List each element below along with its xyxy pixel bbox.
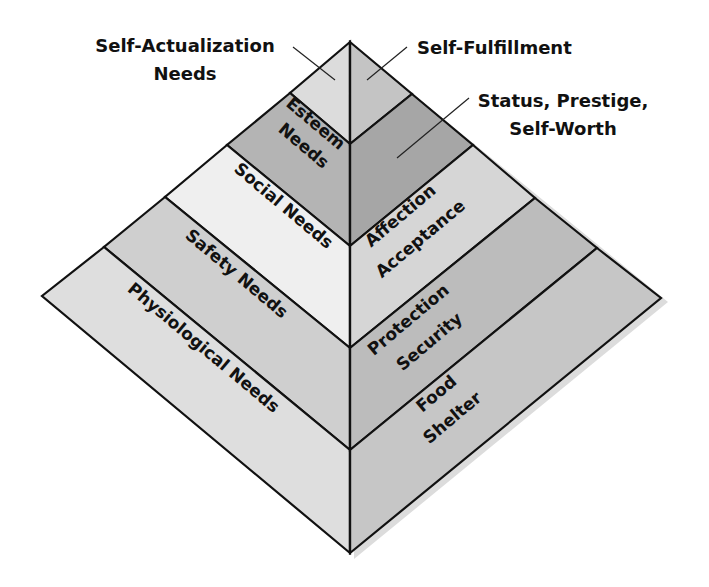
callout-self-actualization-line1: Self-Actualization [95, 35, 274, 56]
callout-self-actualization-line2: Needs [153, 63, 216, 84]
callout-status-line1: Status, Prestige, [478, 90, 649, 111]
maslow-pyramid-diagram: Self-Actualization Needs Self-Fulfillmen… [0, 0, 709, 587]
callout-self-fulfillment: Self-Fulfillment [417, 37, 572, 58]
callout-status-line2: Self-Worth [509, 118, 616, 139]
pyramid-svg: Self-Actualization Needs Self-Fulfillmen… [0, 0, 709, 587]
